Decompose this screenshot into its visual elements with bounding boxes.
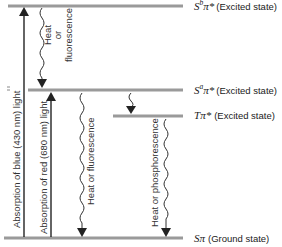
decay-sa-t-wave [129,93,133,107]
arrow-head-up-icon [19,7,29,16]
svg-text:Tπ*(Excited state): Tπ*(Excited state) [194,109,275,121]
decay-sa-s0-wave [80,93,84,228]
level-sb-label: Sbπ*(Excited state) [194,0,277,12]
level-sa-label: Saπ*(Excited state) [194,82,277,96]
decay-t-s0-wave [164,119,168,228]
level-t-label: Tπ*(Excited state) [194,109,275,121]
blue-absorption-label: Absorption of blue (430 nm) light [11,90,22,228]
arrow-head-down-icon [37,79,47,88]
energy-diagram: Absorption of blue (430 nm) light Absorp… [0,0,282,247]
decay-sa-s0-label: Heat or fluorescence [85,117,96,205]
svg-text:Saπ*(Excited state): Saπ*(Excited state) [194,82,277,96]
arrow-head-down-icon [161,228,171,237]
red-absorption-label: Absorption of red (680 nm) light [38,101,49,234]
svg-text:Sπ(Ground state): Sπ(Ground state) [194,232,269,244]
decay-sb-sa-label-3: fluorescence [63,8,74,62]
arrow-head-down-icon [77,228,87,237]
arrow-head-down-icon [126,106,136,114]
arrow-head-up-icon [46,92,56,101]
svg-text:Sbπ*(Excited state): Sbπ*(Excited state) [194,0,277,12]
decay-sb-sa-label-2: or [52,31,63,39]
decay-t-s0-label: Heat or phosphorescence [149,118,160,227]
level-s0-label: Sπ(Ground state) [194,232,269,244]
